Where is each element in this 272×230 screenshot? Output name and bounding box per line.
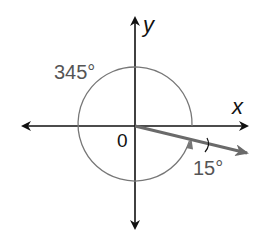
angle-diagram: y x 0 345° 15° <box>0 0 272 230</box>
y-axis-label: y <box>143 14 154 36</box>
reference-angle-label: 15° <box>193 158 223 178</box>
reference-angle-mark <box>205 138 209 152</box>
origin-label: 0 <box>117 131 128 150</box>
x-axis-label: x <box>232 96 243 118</box>
rotation-angle-label: 345° <box>54 62 95 82</box>
